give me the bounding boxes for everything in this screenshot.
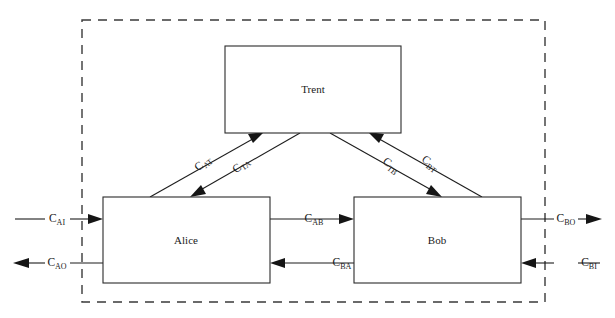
node-bob-label: Bob (428, 234, 447, 246)
channel-label-c-ao-sub: AO (55, 262, 67, 271)
channel-label-c-bi-sub: BI (589, 262, 597, 271)
channel-label-c-ba-sub: BA (340, 262, 351, 271)
svg-text:CAI: CAI (49, 212, 65, 227)
diagram-canvas: Trent Alice Bob CAT CTA CTB (0, 0, 615, 318)
svg-text:CBI: CBI (581, 256, 597, 271)
arrow-head-c-ab (339, 214, 354, 224)
channel-label-c-ai-sub: AI (57, 218, 66, 227)
node-alice[interactable]: Alice (103, 197, 270, 283)
arrow-head-c-bt (368, 132, 384, 143)
channel-label-c-ao: CAO (47, 256, 66, 271)
svg-text:CBA: CBA (333, 256, 352, 271)
arrow-head-c-ba (270, 258, 285, 268)
svg-text:CTA: CTA (230, 155, 253, 177)
arrow-head-c-at (248, 132, 264, 143)
node-bob[interactable]: Bob (354, 197, 521, 283)
svg-text:CAB: CAB (305, 212, 324, 227)
node-trent[interactable]: Trent (225, 46, 401, 133)
arrow-head-c-bo (586, 214, 602, 224)
channel-label-c-tb: CTB (379, 155, 402, 177)
channel-label-c-bi: CBI (581, 256, 597, 271)
channel-label-c-ba: CBA (333, 256, 352, 271)
svg-text:CTB: CTB (379, 155, 402, 177)
channel-label-c-ta: CTA (230, 155, 253, 177)
arrow-head-c-tb (426, 185, 442, 197)
node-trent-label: Trent (301, 83, 324, 95)
arrow-head-c-bi (521, 258, 536, 268)
channel-label-c-bo-sub: BO (564, 218, 575, 227)
arrow-head-c-ta (190, 185, 206, 197)
svg-text:CAO: CAO (47, 256, 66, 271)
svg-text:CBO: CBO (557, 212, 576, 227)
arrow-head-c-ai (88, 214, 103, 224)
channel-label-c-ai: CAI (49, 212, 65, 227)
channel-label-c-ab-sub: AB (312, 218, 323, 227)
channel-label-c-ab: CAB (305, 212, 324, 227)
diagram-svg: Trent Alice Bob CAT CTA CTB (0, 0, 615, 318)
channel-label-c-bo: CBO (557, 212, 576, 227)
node-alice-label: Alice (174, 234, 198, 246)
arrow-head-c-ao (13, 258, 29, 268)
